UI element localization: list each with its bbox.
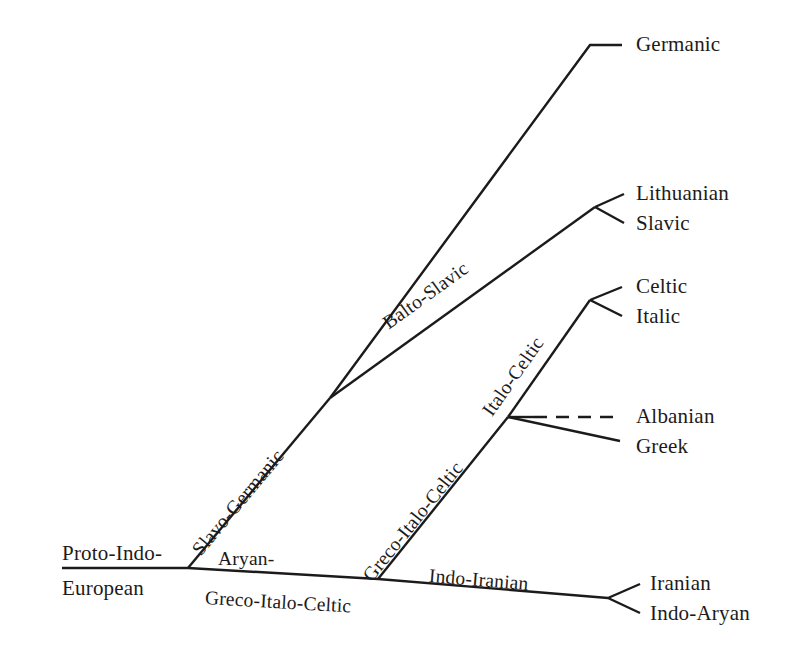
branch-label-aryan-prefix: Aryan- [218,549,274,569]
leaf-label-albanian: Albanian [636,406,715,427]
leaf-label-germanic: Germanic [636,34,720,55]
edge-slavo-germanic-to-germanic [330,45,622,398]
leaf-label-lithuanian: Lithuanian [636,183,729,204]
edge-indo-iranian-to-indo-aryan [608,598,640,613]
edge-root-to-aryan-greco-italo-celtic [188,568,378,579]
edge-greco-italo-celtic-to-greek [508,417,620,441]
leaf-label-slavic: Slavic [636,213,690,234]
leaf-label-iranian: Iranian [650,573,711,594]
leaf-label-indo-aryan: Indo-Aryan [650,603,750,624]
edge-indo-iranian-to-iranian [608,584,640,598]
family-tree-diagram: Proto-Indo- European Slavo-Germanic Balt… [0,0,791,658]
edge-italo-celtic-to-italic [590,300,622,316]
edge-slavo-germanic-to-balto-slavic [330,207,595,398]
edge-balto-slavic-to-slavic [595,207,624,223]
leaf-label-celtic: Celtic [636,276,687,297]
leaf-label-greek: Greek [636,436,688,457]
leaf-label-italic: Italic [636,306,680,327]
root-label-line1: Proto-Indo- [62,543,162,564]
edge-balto-slavic-to-lithuanian [595,194,624,207]
root-label-line2: European [62,578,144,599]
edge-italo-celtic-to-celtic [590,287,622,300]
